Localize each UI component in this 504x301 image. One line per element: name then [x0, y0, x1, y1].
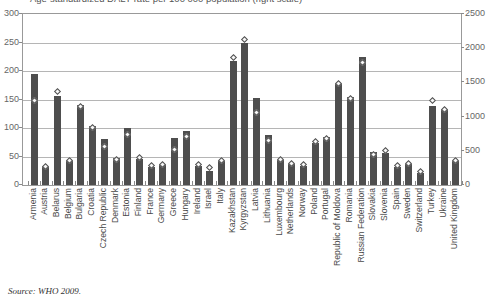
category-label: United Kingdom: [449, 188, 460, 280]
diamond-marker: [54, 88, 61, 95]
diamond-marker: [429, 97, 436, 104]
category-label: Sweden: [402, 188, 413, 280]
plot-area: [22, 13, 462, 186]
left-axis-tick-label: 50: [0, 151, 19, 161]
category-label: Greece: [168, 188, 179, 280]
bar: [300, 166, 307, 185]
right-axis-tick-label: 1500: [465, 76, 495, 86]
bar: [277, 160, 284, 185]
diamond-marker: [230, 54, 237, 61]
bar: [429, 106, 436, 185]
left-axis-tick: [19, 127, 22, 128]
left-axis-tick-label: 150: [0, 94, 19, 104]
bar: [218, 161, 225, 185]
category-tick: [204, 181, 205, 185]
category-tick: [63, 181, 64, 185]
category-label: Denmark: [110, 188, 121, 280]
bar: [31, 74, 38, 185]
category-label: Italy: [215, 188, 226, 280]
category-label: Latvia: [250, 188, 261, 280]
category-label: Czech Republic: [98, 188, 109, 280]
left-axis-tick-label: 200: [0, 65, 19, 75]
category-label: Belarus: [51, 188, 62, 280]
left-axis-tick: [19, 99, 22, 100]
category-label: Israel: [203, 188, 214, 280]
category-tick: [75, 181, 76, 185]
bar: [77, 105, 84, 185]
bar: [230, 61, 237, 185]
figure: Age-standardized DALY rate per 100 000 p…: [0, 0, 504, 301]
category-tick: [380, 181, 381, 185]
category-tick: [40, 181, 41, 185]
right-axis-tick: [461, 184, 464, 185]
bar: [323, 137, 330, 185]
bar: [54, 96, 61, 185]
bar: [241, 43, 248, 186]
category-tick: [180, 181, 181, 185]
category-tick: [427, 181, 428, 185]
bar: [452, 161, 459, 185]
bar: [288, 164, 295, 185]
category-label: Hungary: [180, 188, 191, 280]
right-axis-tick-label: 0: [465, 179, 495, 189]
category-tick: [110, 181, 111, 185]
category-label: Slovakia: [367, 188, 378, 280]
left-axis-tick: [19, 42, 22, 43]
left-axis-tick: [19, 156, 22, 157]
category-tick: [309, 181, 310, 185]
category-label: Slovenia: [379, 188, 390, 280]
category-tick: [216, 181, 217, 185]
category-tick: [321, 181, 322, 185]
category-tick: [438, 181, 439, 185]
bar: [195, 166, 202, 185]
bar: [347, 97, 354, 185]
category-label: Romania: [344, 188, 355, 280]
category-tick: [192, 181, 193, 185]
category-tick: [169, 181, 170, 185]
bar: [335, 83, 342, 185]
category-tick: [262, 181, 263, 185]
category-label: Croatia: [86, 188, 97, 280]
right-axis-tick-label: 2500: [465, 8, 495, 18]
bar: [394, 167, 401, 185]
bar: [359, 57, 366, 185]
left-axis-tick-label: 0: [0, 179, 19, 189]
category-label: Republic of Moldova: [332, 188, 343, 280]
source-note: Source: WHO 2009.: [8, 286, 81, 296]
category-label: Ireland: [192, 188, 203, 280]
bar: [89, 126, 96, 185]
right-axis-tick: [461, 81, 464, 82]
category-tick: [403, 181, 404, 185]
category-tick: [356, 181, 357, 185]
category-tick: [391, 181, 392, 185]
right-axis-tick-label: 2000: [465, 42, 495, 52]
category-tick: [145, 181, 146, 185]
category-label: Lithuania: [262, 188, 273, 280]
right-axis-tick: [461, 13, 464, 14]
category-label: Armenia: [28, 188, 39, 280]
category-tick: [251, 181, 252, 185]
category-tick: [368, 181, 369, 185]
bar: [148, 167, 155, 185]
bar: [136, 159, 143, 185]
category-label: Spain: [391, 188, 402, 280]
bar: [441, 109, 448, 185]
bar: [405, 164, 412, 185]
left-axis-tick: [19, 13, 22, 14]
left-axis-tick-label: 250: [0, 37, 19, 47]
category-label: Estonia: [121, 188, 132, 280]
category-tick: [286, 181, 287, 185]
bar: [206, 171, 213, 185]
category-tick: [52, 181, 53, 185]
right-axis-tick: [461, 116, 464, 117]
category-label: Bulgaria: [74, 188, 85, 280]
category-label: Netherlands: [285, 188, 296, 280]
figure-title: Age-standardized DALY rate per 100 000 p…: [30, 0, 302, 4]
category-tick: [134, 181, 135, 185]
category-label: Kazakhstan: [227, 188, 238, 280]
category-tick: [298, 181, 299, 185]
category-label: Belgium: [63, 188, 74, 280]
category-tick: [98, 181, 99, 185]
category-tick: [122, 181, 123, 185]
category-label: Germany: [156, 188, 167, 280]
